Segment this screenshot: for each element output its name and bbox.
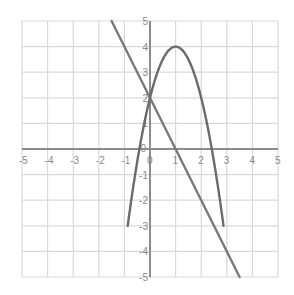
function-graph: -5-4-3-2-1012345 543210-1-2-3-4-5	[0, 0, 294, 295]
axes	[22, 21, 278, 277]
y-tick-label: -2	[139, 195, 148, 206]
x-tick-label: -2	[96, 155, 105, 166]
y-tick-label: -4	[139, 246, 148, 257]
y-tick-label: 5	[142, 16, 148, 27]
x-tick-label: -5	[19, 155, 28, 166]
x-tick-label: 2	[198, 155, 204, 166]
x-tick-label: 4	[249, 155, 255, 166]
y-tick-label: 3	[142, 67, 148, 78]
y-tick-label: 4	[142, 42, 148, 53]
x-tick-label: -4	[45, 155, 54, 166]
y-tick-label: -1	[139, 170, 148, 181]
x-tick-label: -1	[121, 155, 130, 166]
x-tick-label: 0	[147, 155, 153, 166]
x-tick-label: 1	[173, 155, 179, 166]
x-tick-labels: -5-4-3-2-1012345	[19, 155, 281, 166]
y-tick-label: -5	[139, 272, 148, 283]
x-tick-label: 5	[275, 155, 281, 166]
x-tick-label: 3	[224, 155, 230, 166]
y-tick-label: -3	[139, 221, 148, 232]
x-tick-label: -3	[70, 155, 79, 166]
